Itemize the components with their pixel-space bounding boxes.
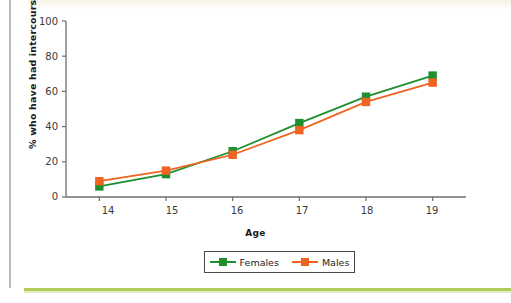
data-point-males-15 (162, 166, 170, 174)
legend-marker-females (219, 258, 227, 266)
x-axis-title: Age (0, 228, 511, 238)
legend-swatch-females-icon (210, 257, 236, 268)
page-canvas: % who have had intercourse, 2002 100 80 … (0, 0, 511, 303)
series-line-females (99, 76, 432, 187)
data-point-males-14 (95, 177, 103, 185)
chart-legend: Females Males (204, 251, 355, 273)
legend-item-females: Females (210, 257, 279, 268)
data-point-males-18 (362, 98, 370, 106)
data-point-males-19 (428, 78, 436, 86)
line-chart: % who have had intercourse, 2002 100 80 … (0, 0, 511, 303)
data-point-males-17 (295, 126, 303, 134)
series-line-males (99, 83, 432, 182)
series-females (95, 71, 437, 190)
legend-item-males: Males (292, 257, 349, 268)
legend-marker-males (301, 258, 309, 266)
series-males (95, 78, 437, 185)
legend-label-females: Females (240, 257, 279, 268)
data-point-males-16 (228, 151, 236, 159)
series-layer (95, 71, 437, 190)
legend-swatch-males-icon (292, 257, 318, 268)
page-accent-rule-shadow (24, 291, 511, 293)
legend-label-males: Males (322, 257, 349, 268)
